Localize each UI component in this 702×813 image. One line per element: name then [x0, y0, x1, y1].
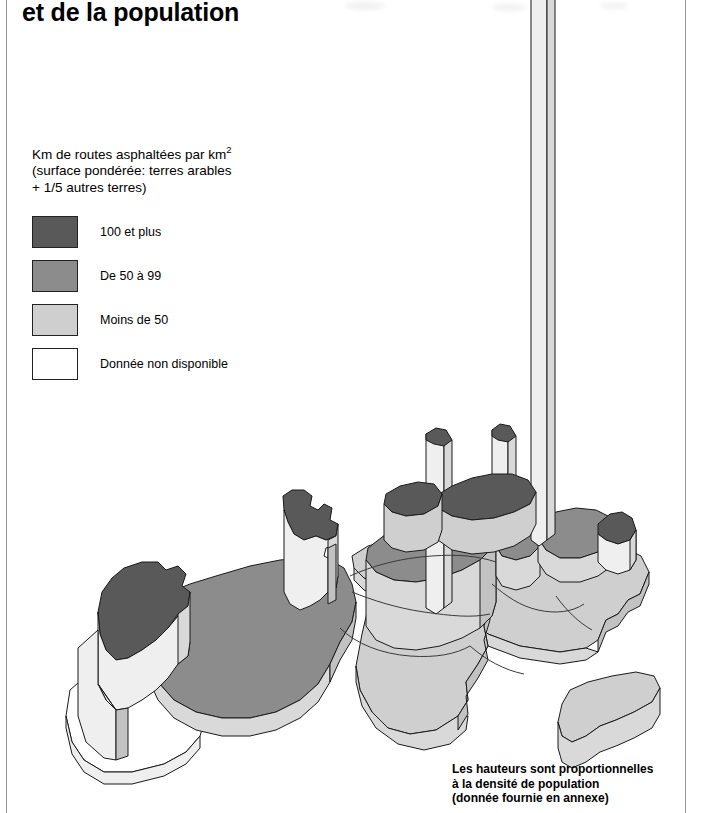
region-prism-levant-caps[interactable] — [384, 474, 536, 554]
legend-swatch-high — [32, 216, 78, 248]
legend-label-mid: De 50 à 99 — [100, 269, 161, 283]
legend-swatch-mid — [32, 260, 78, 292]
country-prism-syria[interactable] — [531, 0, 555, 546]
legend-title-superscript: 2 — [226, 144, 231, 155]
page-title: et de la population — [22, 0, 239, 27]
country-prism-saudi-arabia[interactable] — [455, 544, 649, 664]
legend-label-low: Moins de 50 — [100, 313, 168, 327]
prism-map: .o{stroke:#1a1a1a;stroke-width:1;stroke-… — [0, 0, 702, 813]
country-prism-libya[interactable] — [352, 534, 452, 606]
coastline-hairline — [340, 628, 470, 657]
legend-label-na: Donnée non disponible — [100, 357, 228, 371]
legend-subtitle: (surface pondérée: terres arables + 1/5 … — [32, 163, 232, 195]
coastline-hairline — [352, 592, 490, 616]
legend-item-low[interactable]: Moins de 50 — [32, 298, 332, 342]
legend-swatch-low — [32, 304, 78, 336]
prism-map-svg: .o{stroke:#1a1a1a;stroke-width:1;stroke-… — [0, 0, 702, 813]
country-prism-morocco[interactable] — [78, 562, 190, 760]
legend-items: 100 et plus De 50 à 99 Moins de 50 Donné… — [32, 210, 332, 386]
country-prism-tunisia[interactable] — [283, 490, 338, 610]
page-rule-right — [685, 0, 686, 813]
legend-title-main: Km de routes asphaltées par km — [32, 147, 226, 162]
country-prism-sudan[interactable] — [356, 566, 490, 750]
legend-swatch-na — [32, 348, 78, 380]
country-prism-iraq[interactable] — [538, 508, 618, 582]
legend-item-na[interactable]: Donnée non disponible — [32, 342, 332, 386]
legend-title: Km de routes asphaltées par km2 (surface… — [32, 142, 332, 196]
page-rule-left — [6, 0, 7, 813]
country-prism-algeria[interactable] — [142, 558, 356, 736]
coastline-hairline — [556, 596, 592, 630]
country-prism-israel[interactable] — [426, 428, 452, 614]
coastline-hairline — [470, 646, 524, 674]
country-prism-egypt[interactable] — [366, 514, 496, 650]
legend-label-high: 100 et plus — [100, 225, 161, 239]
country-prism-western-sahara[interactable] — [66, 672, 206, 784]
country-prism-jordan[interactable] — [496, 528, 540, 590]
legend: Km de routes asphaltées par km2 (surface… — [32, 142, 332, 386]
legend-item-high[interactable]: 100 et plus — [32, 210, 332, 254]
scan-artifact — [345, 2, 385, 10]
scan-artifact — [492, 4, 526, 11]
coastline-hairline — [492, 584, 584, 612]
scan-artifact — [600, 3, 628, 9]
legend-item-mid[interactable]: De 50 à 99 — [32, 254, 332, 298]
country-prism-lebanon[interactable] — [492, 424, 516, 526]
country-prism-kuwait[interactable] — [598, 512, 636, 574]
atlas-page: et de la population Km de routes asphalt… — [0, 0, 702, 813]
coastline-hairline — [350, 555, 496, 576]
country-prism-yemen[interactable] — [558, 672, 672, 768]
map-caption: Les hauteurs sont proportionnelles à la … — [452, 762, 653, 806]
